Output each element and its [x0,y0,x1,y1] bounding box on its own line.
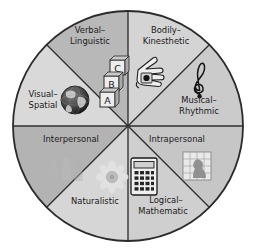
label-interpersonal: Interpersonal [43,134,99,144]
label-intrapersonal: Intrapersonal [149,134,205,144]
label-verbal-linguistic: Verbal– Linguistic [70,25,110,46]
head-in-grid-icon [183,152,211,180]
label-visual-spatial-line1: Visual– [28,89,57,99]
label-bodily-kinesthetic-line2: Kinesthetic [143,36,190,46]
label-musical-rhythmic-line2: Rhythmic [179,106,219,116]
multiple-intelligences-wheel: C B A [0,0,256,251]
people-silhouettes-icon [49,157,83,181]
label-visual-spatial: Visual– Spatial [28,89,57,110]
label-bodily-kinesthetic-line1: Bodily– [151,25,181,35]
diagram-canvas: C B A [0,0,256,251]
globe-icon [61,86,89,114]
label-logical-mathematic-line1: Logical– [149,195,183,205]
label-verbal-linguistic-line1: Verbal– [75,25,106,35]
block-letter-a: A [104,95,111,106]
label-musical-rhythmic-line1: Musical– [181,95,216,105]
label-musical-rhythmic: Musical– Rhythmic [179,95,219,116]
calculator-icon [131,158,157,195]
label-logical-mathematic-line2: Mathematic [138,206,188,216]
label-naturalistic: Naturalistic [71,196,119,206]
label-visual-spatial-line2: Spatial [29,100,58,110]
label-verbal-linguistic-line2: Linguistic [70,36,110,46]
sector-dividers [13,11,243,241]
